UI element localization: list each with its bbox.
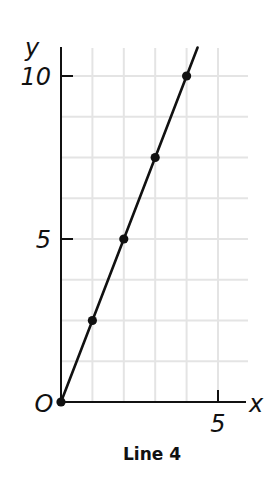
- data-line: [61, 47, 198, 402]
- y-axis-label: y: [24, 34, 40, 62]
- data-point: [56, 397, 65, 406]
- data-point: [88, 316, 97, 325]
- y-tick-label: 10: [20, 63, 51, 91]
- chart-title: Line 4: [123, 444, 181, 464]
- origin-label: O: [35, 390, 54, 418]
- data-point: [119, 234, 128, 243]
- data-point: [182, 71, 191, 80]
- data-point: [151, 153, 160, 162]
- line-chart: y x O Line 4 5105: [0, 0, 280, 502]
- y-tick-label: 5: [36, 226, 51, 254]
- grid-lines: [61, 48, 248, 402]
- data-series: [56, 47, 197, 406]
- x-tick-label: 5: [210, 410, 225, 438]
- x-axis-label: x: [248, 390, 264, 418]
